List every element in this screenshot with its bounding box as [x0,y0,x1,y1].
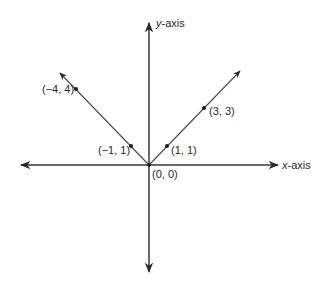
point-3-3 [202,106,206,110]
label-origin: (0, 0) [152,168,178,180]
label-neg4-4: (−4, 4) [42,83,74,95]
label-neg1-1: (−1, 1) [98,144,130,156]
x-axis-label: x-axis [281,159,311,171]
point-neg4-4 [74,87,78,91]
y-axis-label: y-axis [155,17,185,29]
coordinate-plane: (−4, 4) (−1, 1) (1, 1) (3, 3) (0, 0) x-a… [0,0,331,294]
label-1-1: (1, 1) [171,144,197,156]
point-1-1 [165,144,169,148]
label-3-3: (3, 3) [209,105,235,117]
origin-point [147,163,151,167]
